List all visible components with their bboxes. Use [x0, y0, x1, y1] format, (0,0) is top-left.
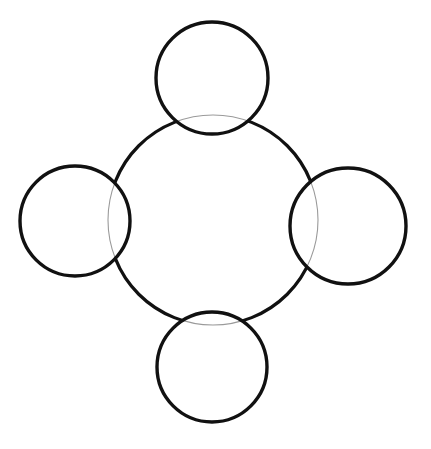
left-small-circle: [20, 166, 130, 276]
right-small-circle: [290, 168, 406, 284]
figure-canvas: [0, 0, 431, 449]
bottom-small-circle: [157, 312, 267, 422]
center-large-circle: [108, 115, 318, 325]
top-small-circle: [156, 22, 268, 134]
circles-diagram: [0, 0, 431, 449]
